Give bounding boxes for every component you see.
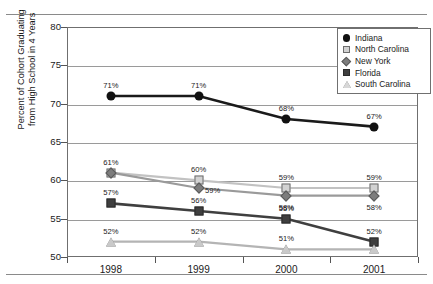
data-point-marker [370,122,379,131]
x-axis-tick-mark [330,257,331,263]
data-point-label: 51% [279,234,294,243]
legend-item[interactable]: South Carolina [341,78,426,90]
x-axis-tick-mark [418,257,419,263]
legend-label: North Carolina [355,44,409,54]
y-axis-tick-mark [61,142,67,143]
legend-marker-icon [341,58,352,65]
legend-marker-icon [341,81,352,88]
series-line [111,203,374,241]
legend-item[interactable]: Florida [341,67,426,79]
data-point-marker [106,92,115,101]
legend-item[interactable]: Indiana [341,32,426,44]
series-line [111,242,374,250]
y-axis-tick-label: 75 [21,59,61,70]
x-axis-tick-label: 2000 [251,264,321,275]
page-rule-top [6,14,427,15]
data-point-marker [194,207,203,216]
y-axis-tick-mark [61,219,67,220]
y-axis-tick-mark [61,104,67,105]
y-axis-tick-label: 70 [21,98,61,109]
data-point-marker [106,237,116,246]
y-axis-tick-label: 50 [21,251,61,262]
y-axis-tick-mark [61,27,67,28]
series-line [111,96,374,127]
data-point-marker [194,92,203,101]
data-point-marker [106,199,115,208]
data-point-label: 71% [191,81,206,90]
legend-item[interactable]: North Carolina [341,44,426,56]
y-axis-tick-mark [61,180,67,181]
data-point-marker [194,237,204,246]
legend-item[interactable]: New York [341,55,426,67]
data-point-label: 52% [367,227,382,236]
data-point-marker [369,245,379,254]
data-point-label: 55% [279,204,294,213]
y-axis-tick-label: 60 [21,174,61,185]
x-axis-tick-mark [243,257,244,263]
chart-legend: IndianaNorth CarolinaNew YorkFloridaSout… [337,28,431,94]
data-point-marker [281,245,291,254]
data-point-label: 52% [103,227,118,236]
data-point-label: 68% [279,104,294,113]
data-point-label: 71% [103,81,118,90]
x-axis-tick-label: 2001 [339,264,409,275]
data-point-label: 58% [367,203,382,212]
legend-label: New York [355,56,390,66]
x-axis-tick-mark [67,257,68,263]
legend-label: Indiana [355,33,382,43]
data-point-label: 59% [367,173,382,182]
legend-marker-icon [341,46,352,54]
data-point-label: 61% [103,158,118,167]
x-axis-tick-mark [155,257,156,263]
data-point-label: 59% [205,186,220,195]
data-point-label: 67% [367,112,382,121]
chart-figure: Percent of Cohort Graduating from High S… [0,0,433,284]
legend-label: Florida [355,68,381,78]
legend-label: South Carolina [355,79,410,89]
x-axis-tick-label: 1999 [164,264,234,275]
y-axis-tick-label: 65 [21,136,61,147]
legend-marker-icon [341,69,352,77]
y-axis-tick-mark [61,65,67,66]
y-axis-tick-label: 55 [21,213,61,224]
data-point-label: 56% [191,196,206,205]
data-point-label: 52% [191,227,206,236]
data-point-label: 59% [279,173,294,182]
y-axis-tick-label: 80 [21,21,61,32]
data-point-marker [282,214,291,223]
legend-marker-icon [341,34,352,42]
data-point-label: 60% [191,165,206,174]
data-point-marker [282,115,291,124]
x-axis-tick-label: 1998 [76,264,146,275]
data-point-label: 57% [103,188,118,197]
